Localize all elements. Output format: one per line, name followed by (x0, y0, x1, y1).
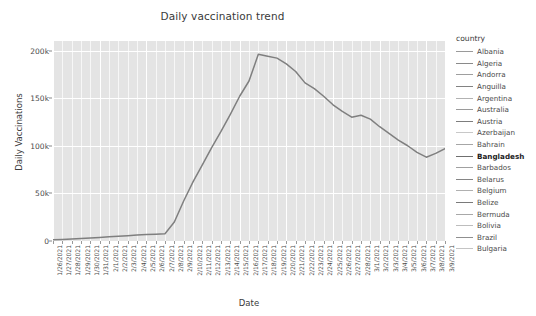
x-axis-tick-label: 3/5/2021 (410, 245, 417, 272)
legend-item-label: Brazil (477, 233, 497, 242)
legend-item[interactable]: Argentina (456, 92, 536, 104)
legend-line-swatch (456, 63, 473, 64)
legend-item[interactable]: Brazil (456, 232, 536, 244)
legend-item-label: Algeria (477, 59, 502, 68)
x-axis-tick-label: 2/27/2021 (354, 245, 361, 276)
y-axis-tick-mark (49, 98, 52, 99)
legend-item[interactable]: Barbados (456, 162, 536, 174)
x-axis-tick-label: 2/15/2021 (242, 245, 249, 276)
daily-vaccination-trend-chart: Daily vaccination trend Daily Vaccinatio… (0, 0, 536, 316)
legend-item[interactable]: Azerbaijan (456, 127, 536, 139)
x-axis-tick-mark (165, 241, 166, 244)
x-axis-tick-mark (314, 241, 315, 244)
x-axis-title: Date (53, 298, 445, 308)
legend-item[interactable]: Bermuda (456, 208, 536, 220)
x-axis-tick-label: 1/30/2021 (93, 245, 100, 276)
legend-item[interactable]: Algeria (456, 58, 536, 70)
x-axis-tick-label: 2/11/2021 (205, 245, 212, 276)
y-axis-tick-label: 0 (3, 237, 49, 246)
legend-item-label: Andorra (477, 70, 506, 79)
legend-line-swatch (456, 86, 473, 87)
legend-item[interactable]: Albania (456, 46, 536, 58)
legend-item[interactable]: Belgium (456, 185, 536, 197)
x-axis-tick-mark (408, 241, 409, 244)
x-axis-tick-mark (146, 241, 147, 244)
x-axis-tick-label: 2/3/2021 (130, 245, 137, 272)
y-axis-title: Daily Vaccinations (14, 67, 24, 197)
x-axis-tick-mark (380, 241, 381, 244)
legend-item-label: Azerbaijan (477, 128, 515, 137)
x-axis-tick-label: 2/10/2021 (196, 245, 203, 276)
legend-item-label: Belarus (477, 175, 504, 184)
legend-item-label: Barbados (477, 163, 511, 172)
y-axis-tick-label: 200k (3, 46, 49, 55)
x-axis-tick-mark (221, 241, 222, 244)
legend-item-label: Bermuda (477, 210, 510, 219)
x-axis-tick-mark (417, 241, 418, 244)
x-axis-tick-label: 3/7/2021 (429, 245, 436, 272)
legend-item[interactable]: Australia (456, 104, 536, 116)
legend-item-label: Bolivia (477, 221, 501, 230)
x-axis-tick-mark (62, 241, 63, 244)
x-axis-tick-mark (426, 241, 427, 244)
legend-item[interactable]: Bahrain (456, 139, 536, 151)
x-axis-tick-mark (268, 241, 269, 244)
x-axis-tick-mark (333, 241, 334, 244)
x-axis-tick-label: 2/23/2021 (317, 245, 324, 276)
x-axis-tick-mark (174, 241, 175, 244)
x-axis-tick-mark (156, 241, 157, 244)
x-axis-tick-mark (53, 241, 54, 244)
legend-line-swatch (456, 225, 473, 226)
legend-item[interactable]: Austria (456, 116, 536, 128)
legend-item[interactable]: Anguilla (456, 81, 536, 93)
x-axis-tick-label: 2/18/2021 (270, 245, 277, 276)
x-axis-tick-mark (202, 241, 203, 244)
legend-item[interactable]: Bulgaria (456, 243, 536, 255)
x-axis-tick-label: 2/24/2021 (326, 245, 333, 276)
x-axis-tick-mark (445, 241, 446, 244)
legend-item[interactable]: Bolivia (456, 220, 536, 232)
series-line (53, 54, 445, 240)
x-axis: 1/26/20211/27/20211/28/20211/29/20211/30… (53, 241, 445, 299)
legend-item-label: Anguilla (477, 82, 506, 91)
legend-item-label: Bangladesh (477, 152, 524, 161)
x-axis-tick-label: 2/17/2021 (261, 245, 268, 276)
x-axis-tick-label: 3/8/2021 (438, 245, 445, 272)
x-axis-tick-mark (109, 241, 110, 244)
y-axis-tick-label: 150k (3, 94, 49, 103)
legend-line-swatch (456, 248, 473, 249)
x-axis-tick-label: 3/3/2021 (392, 245, 399, 272)
chart-title: Daily vaccination trend (0, 10, 445, 22)
x-axis-tick-label: 1/29/2021 (84, 245, 91, 276)
x-axis-tick-label: 1/28/2021 (74, 245, 81, 276)
legend-line-swatch (456, 98, 473, 99)
legend-line-swatch (456, 51, 473, 52)
legend-item[interactable]: Belize (456, 197, 536, 209)
legend-item[interactable]: Bangladesh (456, 150, 536, 162)
legend-line-swatch (456, 237, 473, 238)
legend-title: country (456, 34, 536, 43)
x-axis-tick-mark (212, 241, 213, 244)
y-axis-tick-label: 50k (3, 189, 49, 198)
legend-item[interactable]: Belarus (456, 174, 536, 186)
x-axis-tick-mark (137, 241, 138, 244)
x-axis-tick-mark (342, 241, 343, 244)
x-axis-tick-mark (277, 241, 278, 244)
y-axis-tick-mark (49, 193, 52, 194)
x-axis-tick-label: 1/27/2021 (65, 245, 72, 276)
legend-items: AlbaniaAlgeriaAndorraAnguillaArgentinaAu… (456, 46, 536, 255)
x-axis-tick-label: 2/25/2021 (336, 245, 343, 276)
x-axis-tick-mark (398, 241, 399, 244)
x-axis-tick-mark (90, 241, 91, 244)
legend-line-swatch (456, 179, 473, 180)
x-axis-tick-label: 2/5/2021 (149, 245, 156, 272)
x-axis-tick-label: 3/1/2021 (373, 245, 380, 272)
x-axis-tick-mark (286, 241, 287, 244)
x-axis-tick-label: 3/6/2021 (420, 245, 427, 272)
x-axis-tick-mark (324, 241, 325, 244)
x-axis-tick-label: 2/19/2021 (280, 245, 287, 276)
y-axis-tick-label: 100k (3, 141, 49, 150)
legend-item[interactable]: Andorra (456, 69, 536, 81)
x-axis-tick-mark (296, 241, 297, 244)
x-axis-tick-mark (128, 241, 129, 244)
